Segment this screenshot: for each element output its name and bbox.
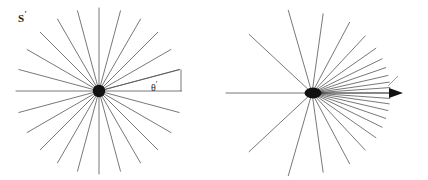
emission-ray bbox=[288, 98, 310, 176]
velocity-arrow-head bbox=[389, 88, 403, 98]
frame-label-s-prime: S′ bbox=[18, 10, 27, 24]
emission-ray bbox=[58, 19, 98, 88]
panel-lab-frame: S θ v bbox=[214, 0, 428, 180]
emission-ray bbox=[40, 32, 97, 89]
emission-ray bbox=[40, 93, 97, 150]
emission-ray bbox=[101, 93, 158, 150]
panel-rest-frame: S′ θ′ bbox=[0, 0, 214, 180]
emission-ray bbox=[19, 92, 96, 113]
emission-ray bbox=[316, 59, 382, 91]
emission-ray bbox=[249, 34, 308, 89]
emission-ray bbox=[19, 70, 96, 91]
emission-ray bbox=[288, 10, 310, 88]
emission-ray bbox=[315, 36, 365, 89]
angle-label-theta-prime: θ′ bbox=[151, 80, 158, 93]
emission-ray bbox=[316, 95, 382, 127]
emission-ray bbox=[27, 93, 96, 133]
theta-primed-wedge bbox=[99, 70, 182, 92]
wedge-upper-line bbox=[99, 70, 180, 92]
emission-ray bbox=[313, 14, 323, 88]
emission-ray bbox=[101, 32, 158, 89]
emission-ray bbox=[313, 98, 323, 172]
emission-ray bbox=[102, 92, 179, 113]
emission-ray bbox=[317, 93, 390, 98]
emission-ray bbox=[78, 94, 99, 171]
emission-ray bbox=[78, 11, 99, 88]
emission-ray bbox=[100, 94, 121, 171]
rest-frame-diagram bbox=[0, 0, 214, 180]
source-blob bbox=[93, 85, 105, 97]
emission-ray bbox=[101, 94, 141, 163]
emission-ray bbox=[317, 88, 390, 93]
emission-ray bbox=[315, 97, 365, 150]
source-blob bbox=[305, 88, 322, 99]
emission-ray bbox=[27, 50, 96, 90]
relativistic-beaming-figure: S′ θ′ S θ v bbox=[0, 0, 428, 180]
emission-ray bbox=[100, 11, 121, 88]
emission-ray bbox=[102, 93, 171, 133]
emission-ray bbox=[249, 96, 308, 151]
lab-frame-diagram bbox=[214, 0, 428, 180]
emission-ray bbox=[101, 19, 141, 88]
emission-ray bbox=[58, 94, 98, 163]
theta-leader-line bbox=[388, 76, 398, 86]
emission-ray bbox=[102, 50, 171, 90]
